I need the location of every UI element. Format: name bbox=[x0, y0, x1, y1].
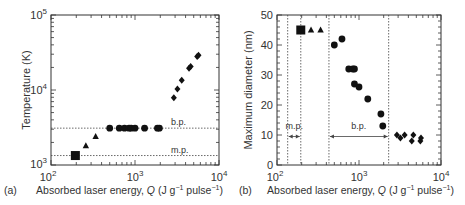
ref-line-label: b.p. bbox=[171, 117, 186, 127]
arrow-head bbox=[330, 135, 334, 139]
tick-label: 50 bbox=[261, 9, 273, 21]
diamond-marker bbox=[179, 77, 185, 84]
x-axis-label: Absorbed laser energy, Q (J g−1 pulse−1) bbox=[36, 184, 223, 196]
panel-b-label: (b) bbox=[239, 184, 252, 196]
plot-frame bbox=[51, 15, 219, 165]
triangle-marker bbox=[83, 142, 89, 148]
panel-b: 01020304050102103104m.p.b.p.Maximum diam… bbox=[235, 0, 465, 205]
y-axis-label: Maximum diameter (nm) bbox=[242, 30, 254, 149]
diamond-marker bbox=[410, 132, 416, 139]
panel-a-caption: (a) Absorbed laser energy, Q (J g−1 puls… bbox=[4, 183, 223, 196]
circle-marker bbox=[156, 125, 163, 132]
arrow-head bbox=[384, 135, 388, 139]
panel-a: 102103104103104105b.p.m.p.Temperature (K… bbox=[0, 0, 235, 205]
square-marker bbox=[296, 26, 305, 35]
ref-line-label: m.p. bbox=[171, 145, 189, 155]
arrow-head bbox=[289, 135, 293, 139]
temperature-chart: 102103104103104105b.p.m.p.Temperature (K… bbox=[0, 0, 235, 205]
triangle-marker bbox=[308, 27, 314, 33]
y-axis-label: Temperature (K) bbox=[20, 50, 32, 129]
tick-label: 104 bbox=[30, 82, 47, 96]
panel-a-label: (a) bbox=[4, 184, 17, 196]
tick-label: 104 bbox=[211, 169, 228, 183]
triangle-marker bbox=[92, 133, 98, 139]
tick-label: 10 bbox=[261, 129, 273, 141]
tick-label: 30 bbox=[261, 69, 273, 81]
tick-label: 102 bbox=[267, 169, 284, 183]
tick-label: 40 bbox=[261, 39, 273, 51]
diamond-marker bbox=[171, 94, 177, 101]
tick-label: 0 bbox=[267, 159, 273, 171]
circle-marker bbox=[132, 125, 139, 132]
tick-label: 103 bbox=[351, 169, 368, 183]
range-label: m.p. bbox=[285, 121, 303, 131]
range-label: b.p. bbox=[351, 121, 366, 131]
circle-marker bbox=[379, 123, 386, 130]
tick-label: 103 bbox=[127, 169, 144, 183]
square-marker bbox=[71, 151, 80, 160]
circle-marker bbox=[364, 96, 371, 103]
tick-label: 102 bbox=[40, 169, 57, 183]
tick-label: 104 bbox=[433, 169, 450, 183]
circle-marker bbox=[141, 125, 148, 132]
tick-label: 20 bbox=[261, 99, 273, 111]
circle-marker bbox=[378, 111, 385, 118]
diamond-marker bbox=[174, 86, 180, 93]
panel-b-caption: (b) Absorbed laser energy, Q (J g−1 puls… bbox=[239, 183, 454, 196]
diameter-chart: 01020304050102103104m.p.b.p.Maximum diam… bbox=[235, 0, 465, 205]
circle-marker bbox=[106, 125, 113, 132]
tick-label: 103 bbox=[30, 156, 47, 170]
arrow-head bbox=[296, 135, 300, 139]
circle-marker bbox=[356, 84, 363, 91]
circle-marker bbox=[331, 42, 338, 49]
diamond-marker bbox=[409, 138, 415, 145]
x-axis-label: Absorbed laser energy, Q (J g−1 pulse−1) bbox=[267, 184, 454, 196]
triangle-marker bbox=[317, 27, 323, 33]
tick-label: 105 bbox=[30, 7, 47, 21]
circle-marker bbox=[351, 66, 358, 73]
circle-marker bbox=[339, 36, 346, 43]
